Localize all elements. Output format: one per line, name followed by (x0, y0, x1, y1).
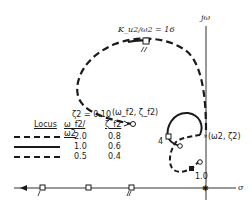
pole-f2-marker (131, 122, 136, 127)
gain-marker (143, 38, 149, 44)
legend-line-1.0 (14, 146, 60, 148)
real-axis-marker-2 (86, 185, 91, 190)
inner-label-1: 1.0 (195, 173, 208, 181)
inner-marker-1 (189, 166, 194, 171)
inner-marker-4 (166, 134, 171, 139)
legend-header-locus: Locus (34, 120, 57, 129)
zeta-label: ζ2 = 0.10 (72, 111, 111, 119)
legend-line-0.5 (14, 156, 60, 158)
real-axis-marker-3 (129, 185, 134, 190)
legend-ratio-1: 1.0 (74, 142, 87, 151)
legend-ratio-0: 2.0 (74, 132, 87, 141)
legend-zeta-1: 0.6 (108, 142, 121, 151)
inner-locus-solid (168, 113, 202, 146)
imag-axis-label: jω (201, 14, 210, 22)
real-axis-label: σ (238, 184, 243, 192)
origin-pole: ✱ (202, 184, 209, 193)
gain-label: K_u2/ω2 = 16 (118, 26, 175, 34)
inner-locus-dashed (170, 135, 200, 172)
pole-2-label: (ω2, ζ2) (208, 133, 241, 141)
legend-zeta-0: 0.8 (108, 132, 121, 141)
inner-pole-marker (178, 144, 183, 149)
legend-ratio-2: 0.5 (74, 152, 87, 161)
legend-line-2.0 (14, 136, 60, 138)
pole-f2-label: (ω_f2, ζ_f2) (112, 109, 158, 117)
real-axis-marker-1 (40, 185, 45, 190)
inner-pole-marker-2 (198, 160, 203, 165)
inner-label-4: 4 (158, 138, 163, 146)
legend-header-zeta: ζ_f2 (105, 120, 121, 129)
real-axis-arrow (20, 185, 27, 191)
legend-zeta-2: 0.4 (108, 152, 121, 161)
